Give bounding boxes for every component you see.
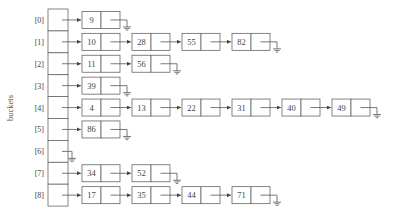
list-node: 4 bbox=[82, 99, 131, 116]
chain-row: 39 bbox=[62, 77, 131, 96]
list-node: 55 bbox=[182, 33, 231, 50]
bucket-index-label: [6] bbox=[35, 147, 45, 156]
node-key-value: 11 bbox=[87, 59, 95, 69]
node-key-value: 31 bbox=[237, 103, 246, 113]
chains: 9102855821156394132231404986345217354471 bbox=[62, 11, 381, 205]
node-key-value: 49 bbox=[337, 103, 346, 113]
chain-row: 86 bbox=[62, 121, 131, 140]
buckets-axis-label: buckets bbox=[5, 95, 15, 121]
chain-row: 17354471 bbox=[62, 187, 281, 206]
list-node: 34 bbox=[82, 165, 131, 182]
node-key-value: 39 bbox=[87, 81, 96, 91]
bucket-index-label: [1] bbox=[35, 38, 45, 47]
list-node: 71 bbox=[232, 187, 281, 206]
list-node: 56 bbox=[132, 55, 181, 74]
bucket-index-label: [2] bbox=[35, 60, 45, 69]
bucket-index-label: [5] bbox=[35, 125, 45, 134]
node-key-value: 56 bbox=[137, 59, 146, 69]
node-key-value: 86 bbox=[87, 124, 96, 134]
bucket-index-label: [3] bbox=[35, 82, 45, 91]
chain-row: 9 bbox=[62, 11, 131, 30]
list-node: 40 bbox=[282, 99, 331, 116]
list-node: 39 bbox=[82, 77, 131, 96]
bucket-index-label: [8] bbox=[35, 191, 45, 200]
list-node: 11 bbox=[82, 55, 131, 72]
list-node: 44 bbox=[182, 187, 231, 204]
node-key-value: 28 bbox=[137, 37, 146, 47]
bucket-index-label: [4] bbox=[35, 104, 45, 113]
list-node: 28 bbox=[132, 33, 181, 50]
list-node: 49 bbox=[332, 99, 381, 118]
chain-row: 41322314049 bbox=[62, 99, 381, 118]
chain-row: 10285582 bbox=[62, 33, 281, 52]
list-node: 31 bbox=[232, 99, 281, 116]
list-node: 52 bbox=[132, 165, 181, 184]
node-key-value: 34 bbox=[87, 168, 96, 178]
node-key-value: 40 bbox=[287, 103, 296, 113]
chain-row: 1156 bbox=[62, 55, 181, 74]
list-node: 86 bbox=[82, 121, 131, 140]
chain-row: 3452 bbox=[62, 165, 181, 184]
node-key-value: 9 bbox=[89, 15, 93, 25]
node-key-value: 13 bbox=[137, 103, 146, 113]
list-node: 22 bbox=[182, 99, 231, 116]
node-key-value: 44 bbox=[187, 190, 196, 200]
bucket-index-label: [0] bbox=[35, 16, 45, 25]
list-node: 10 bbox=[82, 33, 131, 50]
node-key-value: 22 bbox=[187, 103, 196, 113]
node-key-value: 17 bbox=[87, 190, 96, 200]
hash-table-diagram: buckets [0][1][2][3][4][5][6][7][8] 9102… bbox=[0, 0, 398, 218]
list-node: 13 bbox=[132, 99, 181, 116]
list-node: 17 bbox=[82, 187, 131, 204]
node-key-value: 35 bbox=[137, 190, 146, 200]
node-key-value: 52 bbox=[137, 168, 146, 178]
bucket-index-label: [7] bbox=[35, 169, 45, 178]
node-key-value: 82 bbox=[237, 37, 246, 47]
node-key-value: 55 bbox=[187, 37, 196, 47]
list-node: 9 bbox=[82, 11, 131, 30]
node-key-value: 71 bbox=[237, 190, 246, 200]
list-node: 35 bbox=[132, 187, 181, 204]
list-node: 82 bbox=[232, 33, 281, 52]
node-key-value: 10 bbox=[87, 37, 96, 47]
